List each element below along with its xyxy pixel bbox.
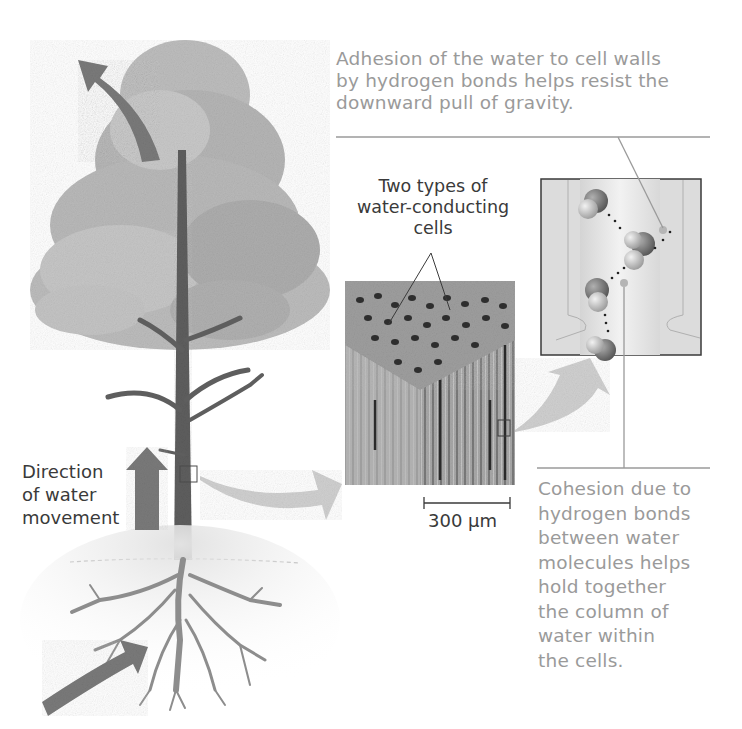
cohesion-line-5: hold together xyxy=(538,575,691,600)
arrow-to-micrograph-icon xyxy=(200,470,342,520)
scale-bar xyxy=(424,497,510,509)
direction-line-3: movement xyxy=(22,506,119,529)
direction-label: Direction of water movement xyxy=(22,460,119,529)
cohesion-line-2: hydrogen bonds xyxy=(538,502,691,527)
adhesion-line-2: by hydrogen bonds helps resist the xyxy=(336,70,669,92)
direction-line-2: of water xyxy=(22,483,119,506)
adhesion-line-3: downward pull of gravity. xyxy=(336,92,669,114)
scale-bar-label: 300 µm xyxy=(428,510,497,531)
cohesion-line-8: the cells. xyxy=(538,649,691,674)
cohesion-line-3: between water xyxy=(538,526,691,551)
cells-label-line-2: water-conducting xyxy=(352,197,514,218)
cells-label: Two types of water-conducting cells xyxy=(352,176,514,239)
direction-line-1: Direction xyxy=(22,460,119,483)
cohesion-line-4: molecules helps xyxy=(538,551,691,576)
cells-label-line-3: cells xyxy=(352,218,514,239)
arrow-to-closeup-icon xyxy=(515,358,610,432)
cohesion-line-7: water within xyxy=(538,624,691,649)
cohesion-line-6: the column of xyxy=(538,600,691,625)
cells-label-line-1: Two types of xyxy=(352,176,514,197)
arrow-up-icon xyxy=(126,447,168,530)
cohesion-caption: Cohesion due to hydrogen bonds between w… xyxy=(538,477,691,673)
water-molecule-closeup xyxy=(541,179,701,361)
cohesion-line-1: Cohesion due to xyxy=(538,477,691,502)
adhesion-caption: Adhesion of the water to cell walls by h… xyxy=(336,48,669,114)
adhesion-line-1: Adhesion of the water to cell walls xyxy=(336,48,669,70)
xylem-micrograph xyxy=(345,281,515,485)
tree-illustration xyxy=(20,40,340,715)
